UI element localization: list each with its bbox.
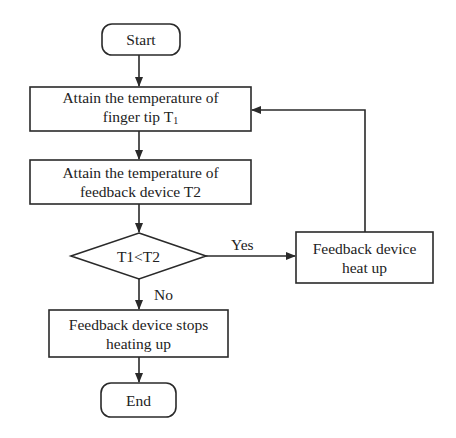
stop-heating-line1: Feedback device stops	[69, 315, 208, 334]
get-t2-line1: Attain the temperature of	[62, 163, 218, 182]
flowchart-shapes	[0, 0, 456, 438]
get-t1-line2: finger tip T1	[103, 107, 178, 130]
start-label: Start	[126, 30, 155, 49]
heat-up-node: Feedback device heat up	[296, 232, 433, 283]
get-t1-subscript: 1	[173, 115, 178, 126]
get-t2-line2: feedback device T2	[80, 182, 201, 201]
end-node: End	[101, 383, 176, 417]
yes-edge-label: Yes	[231, 236, 254, 254]
arrow-loop-heat-up-to-t1	[252, 110, 365, 232]
start-node: Start	[102, 24, 180, 55]
flowchart-canvas: Start Attain the temperature of finger t…	[0, 0, 456, 438]
decision-node: T1<T2	[71, 233, 206, 279]
stop-heating-node: Feedback device stops heating up	[49, 310, 228, 357]
decision-label: T1<T2	[117, 247, 160, 266]
heat-up-line2: heat up	[342, 258, 387, 277]
get-t1-node: Attain the temperature of finger tip T1	[30, 87, 251, 131]
get-t2-node: Attain the temperature of feedback devic…	[30, 160, 251, 204]
stop-heating-line2: heating up	[106, 334, 171, 353]
end-label: End	[126, 391, 151, 410]
heat-up-line1: Feedback device	[313, 239, 417, 258]
get-t1-line2-text: finger tip T	[103, 108, 173, 125]
get-t1-line1: Attain the temperature of	[62, 88, 218, 107]
no-edge-label: No	[154, 286, 173, 304]
